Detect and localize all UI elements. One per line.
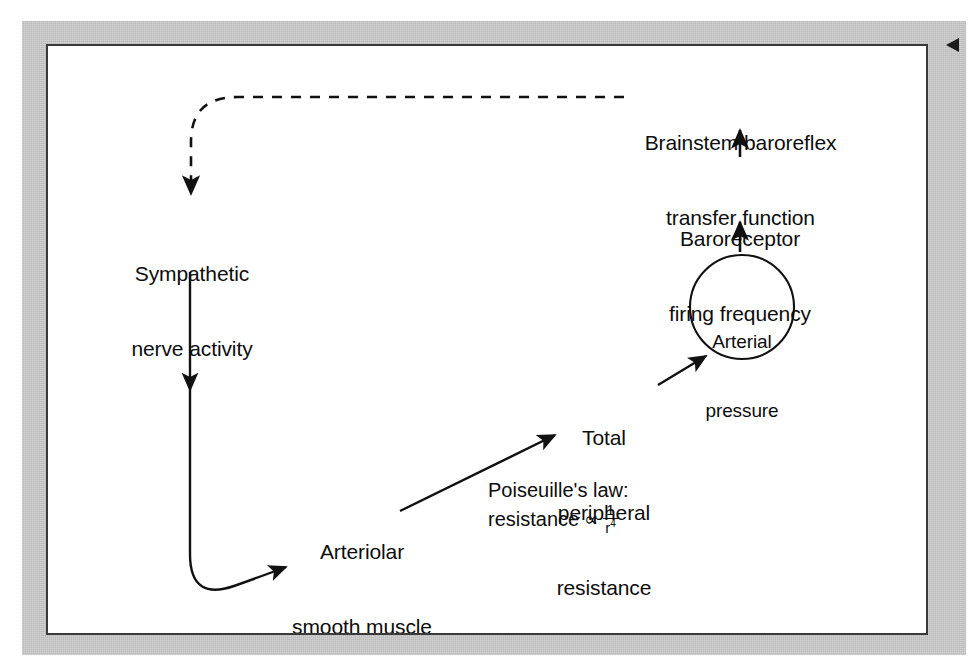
node-arteriolar-line2: smooth muscle <box>264 614 460 635</box>
node-brainstem-line1: Brainstem baroreflex <box>613 130 868 155</box>
node-sympathetic-nerve-activity: Sympathetic nerve activity <box>110 211 274 411</box>
poiseuille-numerator: 1 <box>604 502 616 518</box>
poiseuille-exponent: 4 <box>610 518 616 529</box>
node-sympathetic-line2: nerve activity <box>110 336 274 361</box>
node-tpr-line1: Total <box>522 425 686 450</box>
node-arterial-pressure: Arterial pressure <box>675 284 809 468</box>
annotation-poiseuilles-law: Poiseuille's law: resistance ∝ 1 r4 <box>488 478 629 537</box>
node-arteriolar-line1: Arteriolar <box>264 539 460 564</box>
poiseuille-prefix: resistance <box>488 507 579 532</box>
node-arterial-pressure-line2: pressure <box>675 399 809 422</box>
node-arteriolar-smooth-muscle: Arteriolar smooth muscle contraction <box>264 489 460 635</box>
node-baroreceptor-line1: Baroreceptor <box>630 226 850 251</box>
node-tpr-line3: resistance <box>522 575 686 600</box>
node-sympathetic-line1: Sympathetic <box>110 261 274 286</box>
node-arterial-pressure-line1: Arterial <box>675 330 809 353</box>
diagram-panel: Brainstem baroreflex transfer function B… <box>46 44 928 635</box>
figure-root: Brainstem baroreflex transfer function B… <box>0 0 975 664</box>
poiseuille-line2: resistance ∝ 1 r4 <box>488 503 629 537</box>
proportional-to-icon: ∝ <box>584 507 598 532</box>
poiseuille-line1: Poiseuille's law: <box>488 478 629 503</box>
edge-brainstem-to-sympathetic-dashed <box>191 97 624 194</box>
poiseuille-fraction: 1 r4 <box>603 502 618 536</box>
diagram-canvas: Brainstem baroreflex transfer function B… <box>48 46 926 633</box>
poiseuille-denominator: r4 <box>603 518 618 536</box>
page-edge-marker-icon <box>946 38 959 52</box>
